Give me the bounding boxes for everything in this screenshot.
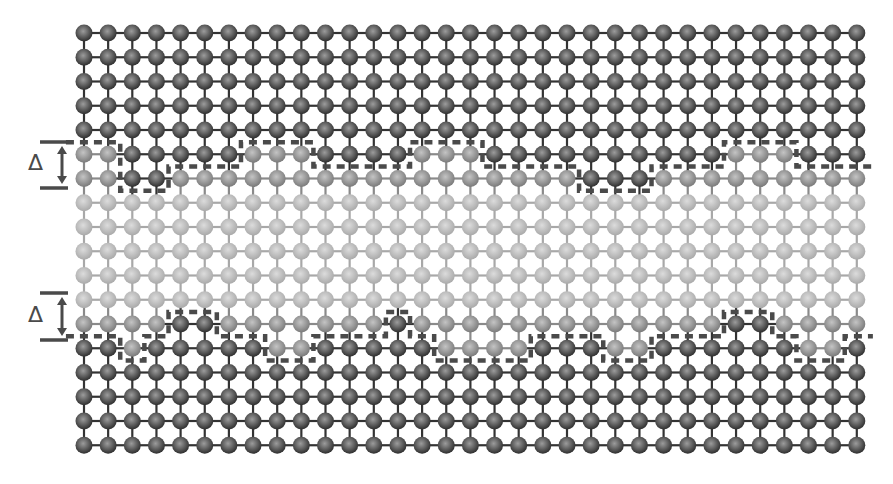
atom-dark [486, 437, 503, 454]
atom-light [486, 267, 503, 284]
atom-dark [848, 413, 865, 430]
atom-dark [679, 146, 696, 163]
atom-dark [269, 73, 286, 90]
atom-dark [824, 49, 841, 66]
atom-medium [365, 316, 382, 333]
atom-light [389, 243, 406, 260]
atom-light [800, 267, 817, 284]
atom-light [269, 267, 286, 284]
atom-dark [559, 122, 576, 139]
atom-light [341, 219, 358, 236]
atom-light [679, 194, 696, 211]
atom-dark [414, 437, 431, 454]
atom-light [534, 267, 551, 284]
atom-medium [100, 316, 117, 333]
atom-light [510, 219, 527, 236]
atom-dark [76, 25, 93, 42]
atom-light [462, 291, 479, 308]
atom-medium [631, 340, 648, 357]
atom-dark [100, 25, 117, 42]
atom-light [196, 267, 213, 284]
atom-light [269, 243, 286, 260]
bond-layer [84, 33, 857, 445]
atom-dark [824, 364, 841, 381]
atom-light [100, 219, 117, 236]
atom-light [220, 291, 237, 308]
atom-dark [679, 97, 696, 114]
atom-dark [607, 437, 624, 454]
atom-light [365, 194, 382, 211]
atom-dark [365, 364, 382, 381]
atom-light [124, 194, 141, 211]
atom-dark [124, 170, 141, 187]
atom-light [655, 243, 672, 260]
atom-dark [703, 49, 720, 66]
atom-dark [462, 437, 479, 454]
atom-dark [462, 49, 479, 66]
atom-dark [414, 388, 431, 405]
atom-light [776, 194, 793, 211]
atom-light [365, 243, 382, 260]
atom-dark [269, 413, 286, 430]
atom-dark [269, 49, 286, 66]
atom-dark [124, 146, 141, 163]
atom-dark [486, 413, 503, 430]
atom-dark [776, 25, 793, 42]
atom-dark [776, 388, 793, 405]
atom-dark [462, 364, 479, 381]
atom-dark [414, 413, 431, 430]
atom-light [728, 267, 745, 284]
atom-dark [486, 49, 503, 66]
atom-medium [607, 340, 624, 357]
atom-light [800, 291, 817, 308]
atom-dark [293, 437, 310, 454]
atom-dark [100, 122, 117, 139]
atom-dark [172, 364, 189, 381]
atom-dark [752, 49, 769, 66]
atom-dark [631, 437, 648, 454]
atom-dark [703, 413, 720, 430]
atom-dark [341, 122, 358, 139]
atom-dark [269, 122, 286, 139]
atom-dark [245, 388, 262, 405]
atom-dark [148, 25, 165, 42]
atom-light [776, 243, 793, 260]
atom-light [583, 194, 600, 211]
atom-dark [365, 122, 382, 139]
atom-light [848, 291, 865, 308]
atom-dark [124, 49, 141, 66]
atom-light [317, 243, 334, 260]
atom-light [752, 291, 769, 308]
atom-dark [800, 437, 817, 454]
atom-dark [679, 413, 696, 430]
atom-dark [703, 437, 720, 454]
atom-medium [703, 316, 720, 333]
atom-dark [76, 364, 93, 381]
atom-dark [389, 97, 406, 114]
atom-dark [559, 364, 576, 381]
atom-dark [293, 97, 310, 114]
atom-light [148, 219, 165, 236]
atom-dark [728, 122, 745, 139]
atom-dark [365, 49, 382, 66]
atom-light [293, 291, 310, 308]
atom-light [728, 219, 745, 236]
atom-dark [776, 97, 793, 114]
atom-dark [486, 388, 503, 405]
atom-dark [631, 364, 648, 381]
atom-medium [534, 170, 551, 187]
atom-dark [848, 97, 865, 114]
atom-dark [462, 73, 479, 90]
atom-dark [486, 97, 503, 114]
atom-dark [269, 97, 286, 114]
atom-dark [293, 25, 310, 42]
atom-light [389, 291, 406, 308]
atom-medium [752, 146, 769, 163]
atom-light [559, 243, 576, 260]
atom-dark [172, 340, 189, 357]
atom-light [703, 267, 720, 284]
atom-dark [728, 25, 745, 42]
atom-dark [631, 388, 648, 405]
delta-bottom-marker [40, 293, 68, 340]
atom-light [534, 291, 551, 308]
